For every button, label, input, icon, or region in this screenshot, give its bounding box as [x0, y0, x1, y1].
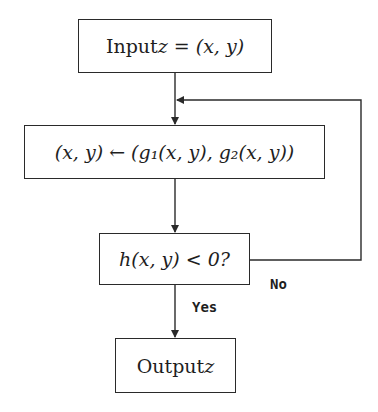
decision-box: h(x, y) < 0?: [99, 233, 250, 285]
update-box: (x, y) ← (g₁(x, y), g₂(x, y)): [24, 125, 325, 179]
yes-label: Yes: [192, 299, 217, 315]
input-box-prefix: Input: [106, 35, 158, 57]
input-box: Input z = (x, y): [78, 19, 272, 73]
flowchart: Input z = (x, y) (x, y) ← (g₁(x, y), g₂(…: [0, 0, 378, 412]
decision-box-math: h(x, y) < 0?: [119, 248, 230, 270]
output-box: Output z: [115, 338, 236, 393]
output-box-prefix: Output: [137, 355, 204, 377]
output-box-math: z: [204, 355, 214, 377]
no-label: No: [270, 276, 287, 292]
update-box-math: (x, y) ← (g₁(x, y), g₂(x, y)): [55, 141, 295, 163]
input-box-math: z = (x, y): [158, 35, 244, 57]
